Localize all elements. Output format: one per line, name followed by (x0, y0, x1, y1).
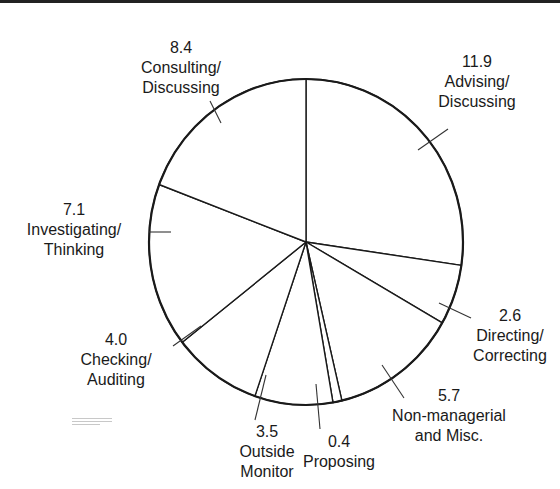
slice-label-non-managerial: 5.7 Non-managerial and Misc. (384, 386, 514, 446)
slice-label-outside-monitor: 3.5 Outside Monitor (232, 422, 302, 482)
slice-label-checking: 4.0 Checking/ Auditing (66, 330, 166, 390)
pie-slices (149, 79, 463, 405)
faint-scan-mark (72, 416, 112, 428)
slice-label-investigating: 7.1 Investigating/ Thinking (6, 200, 142, 260)
slice-label-proposing: 0.4 Proposing (300, 432, 378, 472)
slice-label-advising: 11.9 Advising/ Discussing (418, 52, 536, 112)
slice-label-consulting: 8.4 Consulting/ Discussing (126, 38, 236, 98)
slice-label-directing: 2.6 Directing/ Correcting (460, 306, 560, 366)
